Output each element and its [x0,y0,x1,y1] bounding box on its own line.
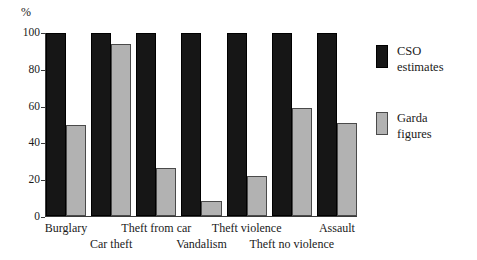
bar-cso-estimates [136,33,156,216]
y-axis-unit-label: % [21,6,31,18]
legend-label-line1: CSO [397,44,444,60]
bar-group [227,33,267,216]
y-axis-tick-mark [41,33,45,34]
y-axis-tick-mark [41,217,45,218]
legend-swatch-cso [376,45,388,68]
bar-cso-estimates [91,33,111,216]
bar-garda-figures [292,108,312,216]
y-axis-tick-mark [41,180,45,181]
bar-garda-figures [156,168,176,216]
x-axis-category-label: Assault [319,222,355,234]
y-axis-tick-label: 80 [29,64,41,76]
bar-group [317,33,357,216]
bar-groups [46,33,357,216]
legend-label-line1: Garda [397,111,432,127]
bar-garda-figures [201,201,221,216]
x-axis-labels: BurglaryCar theftTheft from carVandalism… [45,219,375,255]
bar-cso-estimates [272,33,292,216]
legend-item: Gardafigures [376,111,474,142]
x-axis-category-label: Car theft [90,238,132,250]
x-axis-category-label: Burglary [45,222,87,234]
bar-garda-figures [66,125,86,217]
y-axis-tick-label: 0 [34,211,40,223]
y-axis-tick-label: 20 [29,174,41,186]
y-axis-tick-mark [41,143,45,144]
bar-group [272,33,312,216]
y-axis-tick-label: 60 [29,101,41,113]
x-axis-category-label: Theft from car [121,222,191,234]
legend-label-line2: figures [397,127,432,143]
bar-group [181,33,221,216]
x-axis-category-label: Theft violence [212,222,282,234]
bar-cso-estimates [181,33,201,216]
bar-group [91,33,131,216]
legend-item: CSOestimates [376,44,474,75]
x-axis-category-label: Vandalism [176,238,227,250]
legend-label: CSOestimates [397,44,444,75]
bar-cso-estimates [317,33,337,216]
y-axis-tick-label: 100 [23,27,40,39]
bar-chart-figure: % 020406080100 BurglaryCar theftTheft fr… [0,0,477,260]
bar-garda-figures [247,176,267,216]
bar-group [136,33,176,216]
bar-cso-estimates [227,33,247,216]
bar-garda-figures [111,44,131,216]
y-axis-tick-mark [41,70,45,71]
bar-group [46,33,86,216]
chart-legend: CSOestimatesGardafigures [376,44,474,179]
legend-swatch-garda [376,112,388,135]
legend-label: Gardafigures [397,111,432,142]
legend-label-line2: estimates [397,60,444,76]
bar-garda-figures [337,123,357,216]
x-axis-line [45,216,357,217]
plot-area: 020406080100 [45,33,357,217]
x-axis-category-label: Theft no violence [249,238,334,250]
bar-cso-estimates [46,33,66,216]
y-axis-tick-mark [41,107,45,108]
y-axis-tick-label: 40 [29,138,41,150]
